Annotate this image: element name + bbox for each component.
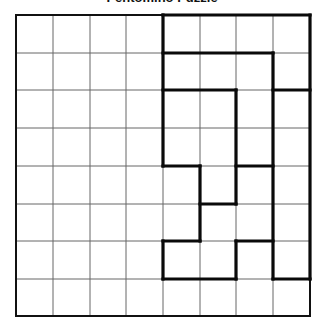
piece-outlines (163, 15, 310, 279)
pentomino-grid (0, 0, 324, 329)
